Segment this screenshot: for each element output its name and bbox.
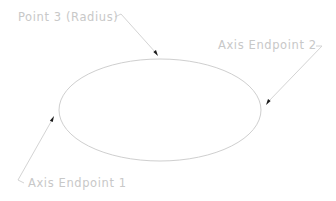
label-axis-endpoint-1: Axis Endpoint 1 <box>28 176 127 190</box>
ellipse-shape <box>59 59 261 161</box>
leader-endpoint1 <box>18 116 54 183</box>
leader-endpoint2 <box>266 46 322 105</box>
ellipse-diagram: Point 3 (Radius) Axis Endpoint 2 Axis En… <box>0 0 336 201</box>
label-axis-endpoint-2: Axis Endpoint 2 <box>218 38 317 52</box>
label-point-3-radius: Point 3 (Radius) <box>18 10 118 24</box>
leader-point3 <box>115 14 158 56</box>
arrowhead-icon <box>50 116 54 122</box>
